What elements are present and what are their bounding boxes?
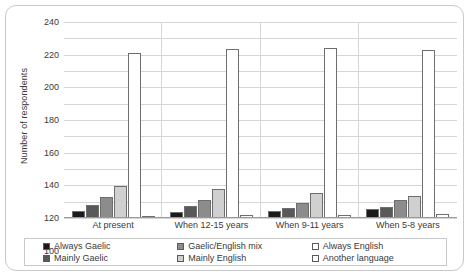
- chart-legend: Always GaelicGaelic/English mixAlways En…: [24, 238, 447, 266]
- y-axis-tick-label: 180: [44, 115, 59, 125]
- x-axis-tick-label: When 5-8 years: [359, 220, 457, 230]
- bar: [310, 193, 323, 218]
- legend-swatch-icon: [43, 243, 50, 250]
- bar: [226, 49, 239, 218]
- y-axis-tick-label: 160: [44, 148, 59, 158]
- legend-swatch-icon: [312, 255, 319, 262]
- legend-swatch-icon: [177, 243, 184, 250]
- x-axis-tick-label: When 9-11 years: [261, 220, 359, 230]
- gridline: 0: [64, 218, 457, 219]
- bar: [100, 197, 113, 218]
- bar: [324, 48, 337, 218]
- legend-label: Another language: [323, 253, 394, 263]
- bar-group: [64, 22, 162, 218]
- bar: [198, 200, 211, 218]
- y-axis-tick-label: 240: [44, 17, 59, 27]
- bar-group: [359, 22, 457, 218]
- legend-label: Mainly Gaelic: [54, 253, 108, 263]
- bar-group: [261, 22, 359, 218]
- y-axis-title: Number of respondents: [14, 6, 34, 226]
- bar: [114, 186, 127, 218]
- y-axis-tick-label: 120: [44, 213, 59, 223]
- x-axis-tick-label: When 12-15 years: [162, 220, 260, 230]
- y-axis-title-text: Number of respondents: [19, 68, 29, 164]
- y-axis-tick-label: 220: [44, 50, 59, 60]
- legend-swatch-icon: [312, 243, 319, 250]
- bar: [296, 203, 309, 218]
- bar-groups: [64, 22, 457, 218]
- bar: [408, 196, 421, 218]
- bar: [394, 200, 407, 218]
- legend-label: Always English: [323, 241, 384, 251]
- legend-label: Always Gaelic: [54, 241, 111, 251]
- bar: [212, 189, 225, 218]
- legend-label: Gaelic/English mix: [188, 241, 262, 251]
- legend-label: Mainly English: [188, 253, 246, 263]
- x-axis-tick-label: At present: [64, 220, 162, 230]
- x-axis-tick-labels: At presentWhen 12-15 yearsWhen 9-11 year…: [64, 220, 457, 230]
- legend-swatch-icon: [177, 255, 184, 262]
- bar: [422, 50, 435, 218]
- bar-group: [162, 22, 260, 218]
- legend-item[interactable]: Always Gaelic: [43, 240, 177, 252]
- legend-item[interactable]: Another language: [312, 252, 446, 264]
- legend-item[interactable]: Mainly Gaelic: [43, 252, 177, 264]
- y-axis-tick-label: 140: [44, 180, 59, 190]
- legend-item[interactable]: Mainly English: [177, 252, 311, 264]
- legend-item[interactable]: Always English: [312, 240, 446, 252]
- plot-area: 240220200180160140120100806040200: [64, 22, 457, 218]
- bar: [128, 53, 141, 218]
- legend-swatch-icon: [43, 255, 50, 262]
- x-axis-line: [64, 217, 457, 218]
- legend-item[interactable]: Gaelic/English mix: [177, 240, 311, 252]
- chart-figure: Number of respondents 240220200180160140…: [5, 5, 464, 271]
- y-axis-tick-label: 200: [44, 82, 59, 92]
